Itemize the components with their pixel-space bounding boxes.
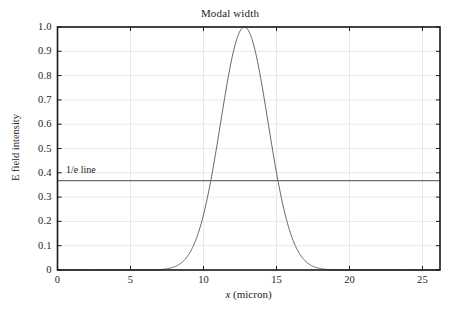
horizontal-gridlines — [58, 27, 441, 246]
y-tick-label: 0.5 — [24, 143, 52, 154]
y-tick-label: 0.4 — [24, 167, 52, 178]
x-axis-label-unit: (micron) — [230, 288, 271, 300]
x-tick-label: 15 — [261, 274, 291, 285]
x-tick-label: 0 — [43, 274, 73, 285]
one-over-e-line-label: 1/e line — [66, 164, 96, 175]
chart-title: Modal width — [0, 7, 460, 19]
y-tick-label: 0.2 — [24, 215, 52, 226]
y-tick-label: 0.7 — [24, 94, 52, 105]
x-tick-label: 10 — [188, 274, 218, 285]
y-tick-label: 0.6 — [24, 118, 52, 129]
y-tick-label: 0.9 — [24, 45, 52, 56]
plot-canvas — [0, 0, 460, 309]
x-tick-label: 5 — [115, 274, 145, 285]
y-tick-label: 0.3 — [24, 191, 52, 202]
y-tick-label: 1.0 — [24, 21, 52, 32]
y-tick-label: 0.8 — [24, 70, 52, 81]
x-tick-label: 25 — [407, 274, 437, 285]
x-axis-label: x (micron) — [57, 288, 440, 300]
y-tick-label: 0.1 — [24, 240, 52, 251]
y-axis-label: E field intensity — [10, 78, 21, 218]
x-tick-label: 20 — [334, 274, 364, 285]
chart-figure: Modal width E field intensity x (micron)… — [0, 0, 460, 309]
